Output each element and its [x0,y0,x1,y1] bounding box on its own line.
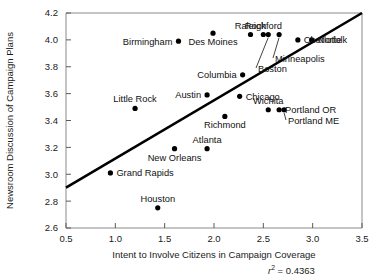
data-point-marker [222,114,227,119]
y-tick-label: 2.8 [45,196,58,207]
point-label: Columbia [197,70,237,80]
data-point-marker [172,146,177,151]
point-label: Portland OR [285,105,336,115]
data-point-marker [237,94,242,99]
point-label: Portland ME [288,116,339,126]
point-labels: BirminghamDes MoinesRaleighRockfordBosto… [113,21,347,204]
scatter-plot-figure: BirminghamDes MoinesRaleighRockfordBosto… [0,0,378,280]
data-point-marker [295,37,300,42]
point-label: Minneapolis [275,54,325,64]
r-squared-text: r2 = 0.4363 [268,264,315,276]
point-label: Boston [258,64,287,74]
point-label: Houston [140,194,175,204]
point-label: Richmond [204,120,246,130]
point-label: Austin [175,90,201,100]
y-tick-label: 4.0 [45,34,58,45]
data-point-marker [277,32,282,37]
data-point-marker [204,92,209,97]
point-label: Des Moines [188,37,237,47]
data-point-marker [277,107,282,112]
y-tick-label: 3.0 [45,169,58,180]
y-tick-label: 3.4 [45,115,58,126]
data-point-marker [155,205,160,210]
data-point-marker [261,32,266,37]
data-point-marker [210,31,215,36]
x-tick-label: 0.5 [59,233,72,244]
r-squared-annotation: r2 = 0.4363 [268,264,315,276]
data-point-marker [248,32,253,37]
point-label: Birmingham [123,37,173,47]
data-point-marker [108,170,113,175]
point-label: Little Rock [113,94,157,104]
data-point-marker [204,146,209,151]
x-tick-label: 1.5 [158,233,171,244]
data-point-marker [240,72,245,77]
x-tick-label: 1.0 [109,233,122,244]
point-label: Norfolk [318,35,348,45]
data-point-marker [266,107,271,112]
point-label: Grand Rapids [116,168,174,178]
data-point-marker [176,39,181,44]
y-tick-label: 4.2 [45,7,58,18]
y-tick-label: 3.8 [45,61,58,72]
point-label: Rockford [245,21,282,31]
x-tick-label: 3.5 [355,233,368,244]
x-tick-label: 2.0 [207,233,220,244]
data-point-marker [132,106,137,111]
y-axis-title: Newsroom Discussion of Campaign Plans [4,32,15,209]
y-tick-label: 2.6 [45,222,58,233]
point-label: Atlanta [193,135,223,145]
y-tick-label: 3.2 [45,142,58,153]
point-label: New Orleans [148,153,202,163]
x-tick-label: 2.5 [257,233,270,244]
x-tick-label: 3.0 [306,233,319,244]
x-axis-title: Intent to Involve Citizens in Campaign C… [112,249,315,260]
plot-canvas: BirminghamDes MoinesRaleighRockfordBosto… [0,0,378,280]
leader-lines [256,38,286,121]
data-point-marker [266,32,271,37]
y-tick-label: 3.6 [45,88,58,99]
point-label: Wichita [253,96,284,106]
